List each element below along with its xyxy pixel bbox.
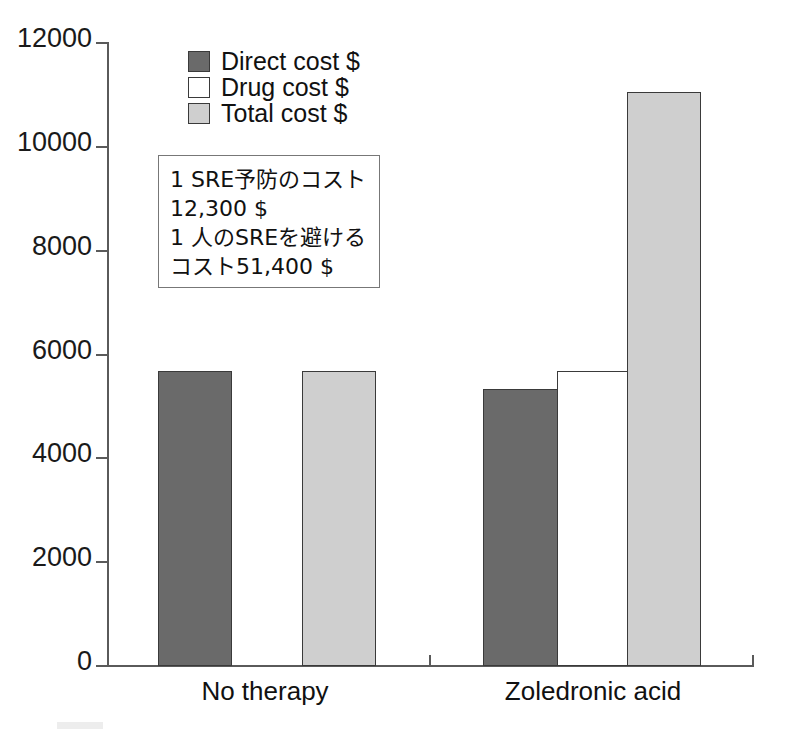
legend-label-drug-cost: Drug cost $ — [221, 75, 349, 100]
y-axis-tick-4000 — [96, 457, 107, 459]
legend-label-total-cost: Total cost $ — [221, 101, 347, 126]
y-axis-tick-10000 — [96, 146, 107, 148]
y-axis-label-text: 0 — [77, 646, 92, 677]
annotation-line-3: 1 人のSREを避ける — [170, 223, 379, 252]
annotation-line-2: 12,300 $ — [170, 194, 379, 223]
y-axis-tick-8000 — [96, 250, 107, 252]
y-axis-label-text: 2000 — [32, 542, 92, 573]
scan-artifact — [57, 722, 103, 729]
x-axis-tick-mid — [429, 655, 431, 666]
y-axis-label-text: 6000 — [32, 335, 92, 366]
legend-swatch-drug-cost — [188, 77, 210, 98]
legend-swatch-direct-cost — [188, 51, 210, 72]
y-axis-tick-6000 — [96, 354, 107, 356]
y-axis-tick-12000 — [96, 42, 107, 44]
x-axis-label-zoledronic-acid: Zoledronic acid — [478, 676, 708, 707]
annotation-line-1: 1 SRE予防のコスト — [170, 165, 379, 194]
y-axis-label-text: 4000 — [32, 438, 92, 469]
bar-zoledronic-direct-cost — [483, 389, 558, 666]
y-axis-label-text: 10000 — [17, 127, 92, 158]
x-axis-tick-right — [752, 655, 754, 666]
y-axis-tick-2000 — [96, 561, 107, 563]
bar-chart: 120001000080006000400020000 No therapy Z… — [0, 0, 788, 733]
legend-item-direct-cost: Direct cost $ — [188, 48, 360, 74]
y-axis-line — [107, 42, 109, 667]
y-axis-tick-0 — [96, 665, 107, 667]
legend-item-drug-cost: Drug cost $ — [188, 74, 360, 100]
annotation-box: 1 SRE予防のコスト 12,300 $ 1 人のSREを避ける コスト51,4… — [158, 155, 380, 288]
legend-swatch-total-cost — [188, 103, 210, 124]
x-axis-label-no-therapy: No therapy — [165, 676, 365, 707]
bar-no-therapy-total-cost — [302, 371, 376, 666]
annotation-line-4: コスト51,400 $ — [170, 252, 379, 281]
bar-no-therapy-direct-cost — [158, 371, 232, 666]
bar-zoledronic-total-cost — [627, 92, 701, 666]
legend-item-total-cost: Total cost $ — [188, 100, 360, 126]
y-axis-label-text: 12000 — [17, 23, 92, 54]
y-axis-label-text: 8000 — [32, 231, 92, 262]
legend-label-direct-cost: Direct cost $ — [221, 49, 360, 74]
chart-legend: Direct cost $ Drug cost $ Total cost $ — [188, 48, 360, 126]
bar-zoledronic-drug-cost — [557, 371, 628, 666]
